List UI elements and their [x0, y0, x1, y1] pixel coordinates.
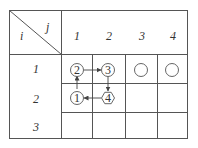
node-2: 2	[71, 63, 84, 77]
svg-text:2: 2	[74, 63, 80, 77]
node-1: 1	[71, 91, 84, 105]
node-empty-1-4	[166, 64, 179, 77]
svg-text:4: 4	[105, 91, 111, 105]
row-header-2: 2	[33, 92, 39, 106]
row-var-label: i	[20, 29, 23, 43]
node-3: 3	[102, 63, 115, 77]
grid-diagram: j i 1 2 3 4 1 2 3 2 3 1 4	[0, 0, 198, 148]
col-header-2: 2	[106, 29, 112, 43]
col-var-label: j	[44, 20, 50, 34]
svg-text:3: 3	[105, 63, 111, 77]
node-empty-1-3	[135, 64, 148, 77]
svg-text:1: 1	[74, 91, 80, 105]
corner-diagonal	[10, 11, 62, 55]
row-header-3: 3	[32, 120, 39, 134]
node-4-hexagon: 4	[102, 91, 115, 105]
col-header-3: 3	[138, 29, 145, 43]
row-header-1: 1	[33, 62, 39, 76]
col-header-1: 1	[74, 29, 80, 43]
col-header-4: 4	[170, 29, 176, 43]
